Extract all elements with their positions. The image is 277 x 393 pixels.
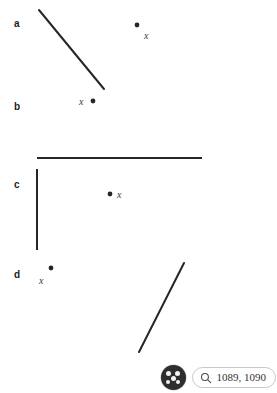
panel-d-point-label: x [39, 276, 43, 286]
panel-d-line-1 [139, 263, 184, 352]
panel-a-point-label: x [144, 31, 148, 41]
panel-label-a: a [14, 19, 20, 29]
cursor-dot [176, 380, 180, 384]
geometry-figure [0, 0, 276, 393]
cursor-dot [171, 376, 176, 381]
cursor-dot [166, 380, 170, 384]
panel-b-point-marker [91, 99, 96, 104]
computer-use-overlay: 1089, 1090 [161, 365, 277, 390]
cursor-dot [175, 371, 180, 376]
screenshot-stage: a b c d x x x x 1089, 1090 [0, 0, 276, 393]
panel-label-d: d [14, 270, 20, 280]
panel-d-point-marker [49, 266, 54, 271]
panel-a-point-marker [135, 23, 140, 28]
panel-a-line-1 [39, 10, 104, 89]
cursor-dot [166, 371, 171, 376]
panel-c-point-label: x [117, 190, 121, 200]
coordinate-readout-pill[interactable]: 1089, 1090 [192, 367, 277, 388]
panel-label-b: b [14, 102, 20, 112]
panel-b-point-label: x [79, 97, 83, 107]
cursor-cluster-icon[interactable] [161, 365, 186, 390]
search-icon [200, 372, 212, 384]
panel-label-c: c [14, 180, 20, 190]
coordinate-value: 1089, 1090 [217, 372, 267, 383]
panel-c-point-marker [108, 192, 113, 197]
